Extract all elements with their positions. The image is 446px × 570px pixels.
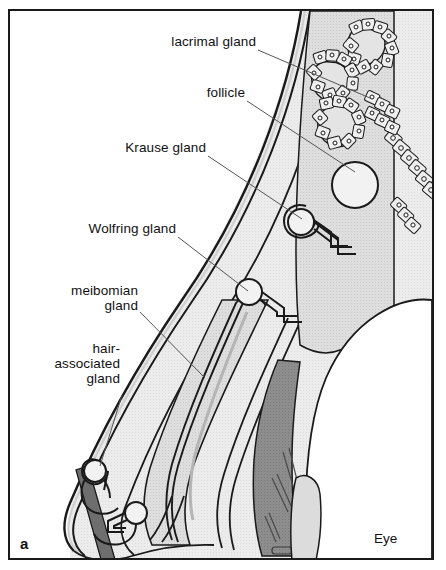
label-hair-associated-gland: hair- associated gland	[10, 341, 120, 386]
follicle	[332, 162, 378, 208]
label-eye: Eye	[374, 531, 397, 546]
label-follicle: follicle	[100, 85, 245, 100]
label-wolfring-gland: Wolfring gland	[30, 221, 176, 236]
lid-margin-lappet	[291, 476, 321, 560]
figure-panel: lacrimal gland follicle Krause gland Wol…	[0, 0, 446, 570]
label-lacrimal-gland: lacrimal gland	[100, 34, 256, 49]
label-krause-gland: Krause gland	[60, 140, 206, 155]
label-meibomian-gland: meibomian gland	[20, 283, 138, 313]
panel-letter: a	[20, 535, 28, 552]
